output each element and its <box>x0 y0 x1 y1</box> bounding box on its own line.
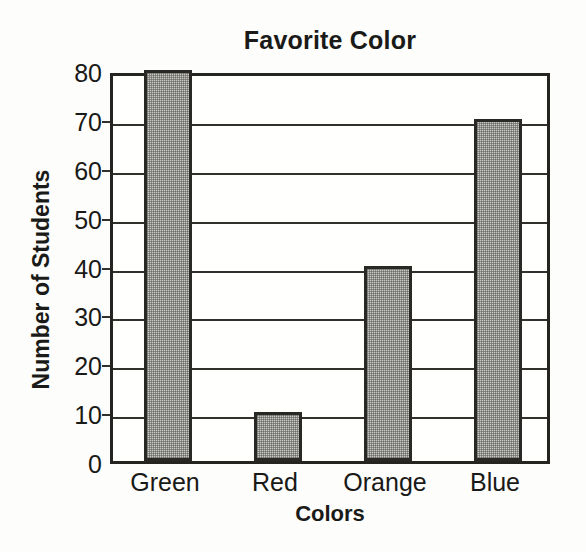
x-axis-label-green: Green <box>110 470 220 495</box>
x-axis-label-orange: Orange <box>330 470 440 495</box>
bar-blue <box>474 119 522 461</box>
y-axis-tick-label: 50 <box>40 207 102 232</box>
bar-green <box>144 70 192 461</box>
x-axis-title: Colors <box>110 503 550 525</box>
y-axis-tick-label: 70 <box>40 109 102 134</box>
bar-red <box>254 412 302 461</box>
bar-chart: Favorite Color Number of Students Colors… <box>0 0 586 552</box>
y-axis-tick-label: 30 <box>40 305 102 330</box>
y-axis-tick-label: 80 <box>40 61 102 86</box>
y-axis-tick-label: 20 <box>40 354 102 379</box>
y-axis-tick-label: 60 <box>40 158 102 183</box>
y-axis-tick-label: 40 <box>40 256 102 281</box>
y-axis-tick-label: 10 <box>40 403 102 428</box>
chart-title: Favorite Color <box>110 28 550 53</box>
y-axis-tick-label: 0 <box>40 452 102 477</box>
plot-area <box>110 73 550 464</box>
bar-orange <box>364 266 412 462</box>
x-axis-label-blue: Blue <box>440 470 550 495</box>
x-axis-label-red: Red <box>220 470 330 495</box>
